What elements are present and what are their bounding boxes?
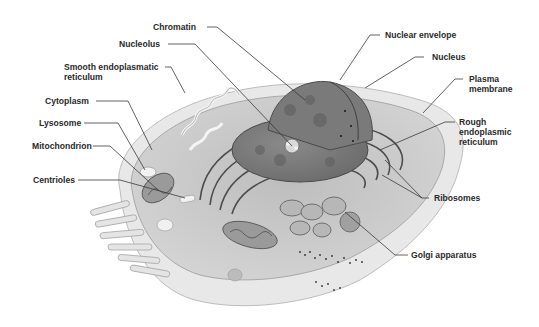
label-golgi-apparatus: Golgi apparatus — [411, 250, 476, 260]
label-centrioles: Centrioles — [33, 175, 75, 185]
label-rough-er-line2: endoplasmic — [459, 127, 512, 137]
label-cytoplasm: Cytoplasm — [45, 96, 89, 106]
label-chromatin: Chromatin — [153, 22, 196, 32]
cell-diagram: Chromatin Nucleolus Smooth endoplasmatic… — [0, 0, 539, 327]
label-rough-er-line3: reticulum — [459, 137, 498, 147]
label-plasma-membrane-line1: Plasma — [469, 74, 499, 84]
label-smooth-er-line1: Smooth endoplasmatic — [64, 62, 159, 72]
cell-illustration — [0, 0, 539, 327]
label-nucleus: Nucleus — [432, 52, 465, 62]
label-nucleolus: Nucleolus — [119, 39, 160, 49]
label-mitochondrion: Mitochondrion — [32, 141, 92, 151]
label-lysosome: Lysosome — [39, 118, 81, 128]
label-rough-er-line1: Rough — [459, 117, 486, 127]
label-smooth-er-line2: reticulum — [64, 72, 103, 82]
label-plasma-membrane-line2: membrane — [469, 84, 512, 94]
label-ribosomes: Ribosomes — [434, 193, 480, 203]
label-nuclear-envelope: Nuclear envelope — [385, 30, 456, 40]
